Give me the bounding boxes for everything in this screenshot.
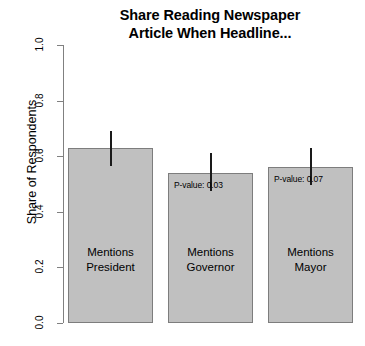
pvalue-annotation: P-value: 0.03 — [174, 180, 223, 190]
pvalue-annotation: P-value: 0.07 — [274, 174, 323, 184]
bar — [268, 167, 353, 323]
error-bar — [110, 131, 112, 166]
bar — [168, 173, 253, 323]
bar — [68, 148, 153, 323]
plot-area: MentionsPresidentMentionsGovernorP-value… — [0, 0, 365, 346]
bar-chart: Share Reading Newspaper Article When Hea… — [0, 0, 365, 346]
